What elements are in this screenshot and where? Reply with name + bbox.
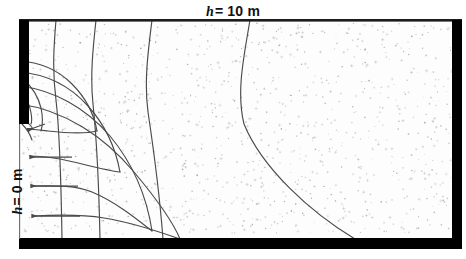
head-value-top: = 10 m xyxy=(215,3,260,19)
upstream-head-label: h= 10 m xyxy=(0,3,466,20)
flow-net-canvas xyxy=(0,0,466,259)
head-symbol-left: h xyxy=(10,206,25,215)
right-impermeable-boundary xyxy=(452,20,462,239)
cutoff-wall xyxy=(19,20,29,124)
bottom-impermeable-base xyxy=(19,238,462,249)
downstream-head-label: h= 0 m xyxy=(9,144,26,240)
head-value-left: = 0 m xyxy=(9,168,25,205)
head-symbol-top: h xyxy=(206,4,215,19)
flow-net-figure: h= 10 m h= 0 m xyxy=(0,0,466,259)
soil-body xyxy=(19,20,462,239)
